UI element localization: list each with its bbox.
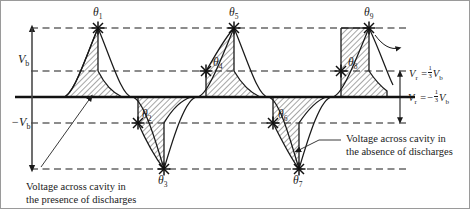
label-theta-5: θ5	[229, 7, 238, 21]
label-theta-4: θ4	[213, 57, 222, 71]
caption-presence-line1: Voltage across cavity in	[26, 181, 136, 194]
marker-theta-4	[200, 65, 213, 78]
theta9-pointer	[375, 35, 399, 48]
absence-caption-leader	[297, 140, 341, 151]
figure-canvas: Vb −Vb Vr =13Vb −Vr =−13Vb Voltage acros…	[0, 0, 470, 209]
marker-theta-9	[363, 22, 376, 35]
caption-presence-line2: the presence of discharges	[26, 194, 136, 207]
marker-theta-8	[335, 65, 348, 78]
caption-absence-line2: the absence of discharges	[346, 146, 453, 159]
caption-absence-line1: Voltage across cavity in	[346, 133, 453, 146]
threshold-label-vr: Vr =13Vb	[409, 65, 443, 82]
axis-label-neg-vb: −Vb	[11, 116, 30, 131]
label-theta-6: θ6	[278, 109, 287, 123]
presence-caption-leader	[41, 97, 91, 167]
marker-theta-1	[92, 22, 105, 35]
label-theta-1: θ1	[93, 7, 102, 21]
label-theta-3: θ3	[158, 175, 167, 189]
marker-theta-5	[228, 22, 241, 35]
label-theta-7: θ7	[293, 175, 302, 189]
caption-presence-of-discharges: Voltage across cavity in the presence of…	[26, 181, 136, 206]
label-theta-2: θ2	[142, 109, 151, 123]
axis-label-vb: Vb	[18, 53, 29, 68]
waveform-plot	[1, 1, 470, 209]
label-theta-9: θ9	[364, 7, 373, 21]
threshold-label-neg-vr: −Vr =−13Vb	[401, 89, 449, 106]
caption-absence-of-discharges: Voltage across cavity in the absence of …	[346, 133, 453, 158]
label-theta-8: θ8	[348, 57, 357, 71]
